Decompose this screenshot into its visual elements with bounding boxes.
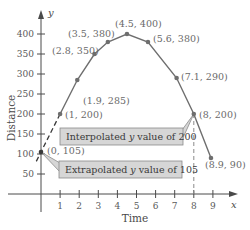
y-tick-label: 150 [17,129,34,139]
x-tick-label: 9 [210,201,216,211]
data-point-label: (5.6, 380) [153,33,200,44]
data-point-label: (8.9, 90) [205,159,246,170]
data-point-marker [75,78,80,83]
x-tick-label: 6 [153,201,159,211]
data-point-marker [146,40,151,45]
data-point-marker [58,112,63,117]
y-tick-label: 50 [23,169,35,179]
data-point-marker [174,76,179,81]
x-tick-label: 7 [172,201,178,211]
x-axis-variable: x [231,199,237,210]
y-axis-variable: y [47,7,54,18]
y-axis-title: Distance [5,95,17,142]
data-point-marker [125,32,130,37]
y-tick-label: 100 [17,149,34,159]
x-tick-label: 4 [115,201,121,211]
data-point-marker [106,40,111,45]
line-chart: 50100150200250300350400 123456789 Interp… [0,0,250,230]
x-axis-title: Time [122,212,149,224]
data-point-label: (4.5, 400) [115,18,162,29]
data-point-marker [192,112,197,117]
x-tick-label: 8 [191,201,197,211]
x-axis-arrow-icon [229,191,238,197]
y-tick-label: 350 [17,49,34,59]
extrapolated-point-label: (0, 105) [47,145,85,156]
data-point-label: (1.9, 285) [83,95,130,106]
x-tick-label: 3 [95,201,101,211]
x-tick-label: 1 [57,201,63,211]
interpolated-annotation-text: Interpolated y value of 200 [66,131,197,142]
y-tick-label: 300 [17,69,34,79]
data-point-label: (3.5, 380) [68,28,115,39]
data-point-label: (1, 200) [65,109,103,120]
extrapolated-point-marker [39,150,44,155]
x-axis-ticks: 123456789 [57,190,216,211]
extrapolated-annotation-text: Extrapolated y value of 105 [65,164,198,175]
x-tick-label: 2 [76,201,82,211]
y-tick-label: 250 [17,89,34,99]
y-tick-label: 200 [17,109,34,119]
x-tick-label: 5 [134,201,140,211]
data-point-label: (8, 200) [199,109,237,120]
y-axis-arrow-icon [38,10,44,19]
data-point-label: (2.8, 350) [52,45,99,56]
y-tick-label: 400 [17,29,34,39]
data-point-label: (7.1, 290) [181,71,228,82]
